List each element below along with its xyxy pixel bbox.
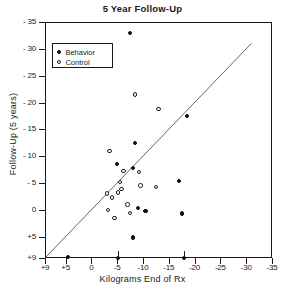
data-point-control bbox=[138, 183, 142, 187]
data-point-control bbox=[118, 180, 122, 184]
x-tick-label: -10 bbox=[130, 263, 156, 272]
data-point-control bbox=[156, 107, 160, 111]
diagonal-reference-line bbox=[45, 43, 251, 258]
y-tick-label: 0 bbox=[6, 205, 36, 214]
y-tick-label: +9 bbox=[6, 253, 36, 262]
data-point-behavior bbox=[143, 209, 147, 213]
x-tick-label: -30 bbox=[233, 263, 259, 272]
x-tick-label: -25 bbox=[207, 263, 233, 272]
y-tick bbox=[39, 183, 45, 184]
off-scale-marker bbox=[184, 251, 185, 258]
data-point-control bbox=[110, 195, 114, 199]
y-tick bbox=[39, 210, 45, 211]
filled-circle-icon bbox=[57, 50, 61, 54]
x-tick-label: -35 bbox=[259, 263, 285, 272]
x-tick-label: -15 bbox=[156, 263, 182, 272]
x-tick-label: 0 bbox=[78, 263, 104, 272]
data-point-behavior bbox=[180, 211, 184, 215]
y-tick-label: - 35 bbox=[6, 17, 36, 26]
data-point-control bbox=[107, 149, 111, 153]
data-point-behavior bbox=[131, 235, 135, 239]
y-axis-title: Follow-Up (5 years) bbox=[8, 64, 18, 204]
x-tick-label: -20 bbox=[182, 263, 208, 272]
data-point-control bbox=[105, 191, 109, 195]
legend-label-control: Control bbox=[65, 58, 89, 67]
y-tick-label: +5 bbox=[6, 232, 36, 241]
x-axis-title: Kilograms End of Rx bbox=[0, 274, 285, 284]
open-circle-icon bbox=[57, 60, 61, 64]
off-scale-marker bbox=[118, 251, 119, 258]
y-tick bbox=[39, 156, 45, 157]
y-tick-label: - 30 bbox=[6, 44, 36, 53]
scatter-plot-figure: 5 Year Follow-Up +9+50- 5- 10- 15- 20- 2… bbox=[0, 0, 285, 291]
x-tick-label: -5 bbox=[104, 263, 130, 272]
y-tick bbox=[39, 49, 45, 50]
data-point-behavior bbox=[131, 166, 135, 170]
y-tick bbox=[39, 22, 45, 23]
legend-item-control: Control bbox=[57, 57, 90, 67]
y-tick bbox=[39, 237, 45, 238]
legend-label-behavior: Behavior bbox=[65, 48, 95, 57]
y-tick bbox=[39, 129, 45, 130]
x-tick-label: +5 bbox=[53, 263, 79, 272]
data-point-control bbox=[125, 202, 129, 206]
y-tick bbox=[39, 103, 45, 104]
legend: Behavior Control bbox=[52, 43, 113, 68]
reference-line-svg bbox=[0, 0, 285, 291]
data-point-behavior bbox=[185, 114, 189, 118]
data-point-control bbox=[154, 185, 158, 189]
y-tick bbox=[39, 76, 45, 77]
legend-item-behavior: Behavior bbox=[57, 47, 95, 57]
data-point-control bbox=[121, 169, 125, 173]
